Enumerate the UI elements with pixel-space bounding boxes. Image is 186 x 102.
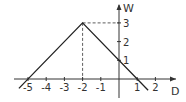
y-tick-label: 2 [123, 37, 129, 48]
y-axis-label: W [123, 2, 134, 15]
x-tick-label: -5 [23, 82, 33, 93]
x-tick-label: 2 [152, 82, 158, 93]
function-chart: D W -5-4-3-2-112 123 [0, 0, 186, 102]
guide-lines [83, 23, 119, 79]
x-axis-arrow-icon [170, 77, 176, 82]
x-tick-label: -2 [78, 82, 88, 93]
x-tick-label: -1 [96, 82, 106, 93]
y-tick-label: 3 [123, 18, 129, 29]
y-axis-arrow-icon [117, 4, 122, 10]
x-tick-label: -4 [41, 82, 51, 93]
x-tick-label: -3 [59, 82, 69, 93]
x-tick-label: 1 [134, 82, 140, 93]
x-axis-label: D [171, 85, 179, 98]
